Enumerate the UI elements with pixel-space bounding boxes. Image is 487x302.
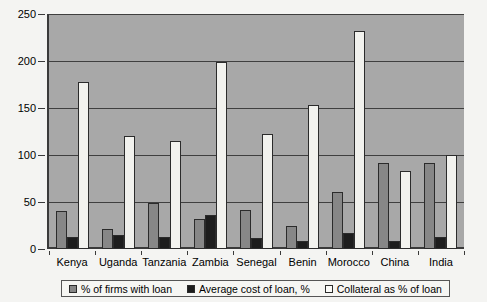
- bar[interactable]: [400, 171, 411, 249]
- bar[interactable]: [251, 238, 262, 249]
- bar[interactable]: [170, 141, 181, 249]
- bar[interactable]: [102, 229, 113, 249]
- y-tick-mark: [38, 249, 45, 250]
- y-axis: 050100150200250: [0, 0, 47, 253]
- bar[interactable]: [435, 237, 446, 249]
- bar-group: [187, 14, 233, 249]
- x-axis-label-benin: Benin: [289, 256, 317, 268]
- bar[interactable]: [297, 241, 308, 249]
- y-tick-mark: [38, 155, 45, 156]
- bar[interactable]: [159, 237, 170, 249]
- bar-group: [233, 14, 279, 249]
- x-axis-label-uganda: Uganda: [99, 256, 138, 268]
- bar[interactable]: [78, 82, 89, 249]
- bar-group: [280, 14, 326, 249]
- bar[interactable]: [308, 105, 319, 249]
- legend-item-series-0[interactable]: % of firms with loan: [69, 283, 172, 295]
- bar[interactable]: [148, 203, 159, 249]
- x-axis-label-senegal: Senegal: [236, 256, 276, 268]
- y-tick-mark: [38, 14, 45, 15]
- y-tick-mark: [38, 202, 45, 203]
- bar[interactable]: [124, 136, 135, 249]
- x-axis-label-zambia: Zambia: [192, 256, 229, 268]
- x-axis-label-tanzania: Tanzania: [142, 256, 186, 268]
- bar[interactable]: [389, 241, 400, 249]
- bar[interactable]: [332, 192, 343, 249]
- legend-swatch-series-2: [325, 285, 333, 293]
- x-axis-label-kenya: Kenya: [56, 256, 87, 268]
- legend-item-series-1[interactable]: Average cost of loan, %: [187, 283, 310, 295]
- bar[interactable]: [216, 62, 227, 249]
- bar-group: [141, 14, 187, 249]
- y-tick-label: 150: [18, 103, 36, 113]
- x-tick-mark: [141, 251, 142, 255]
- x-tick-mark: [464, 251, 465, 255]
- bar[interactable]: [354, 31, 365, 249]
- bar[interactable]: [113, 235, 124, 249]
- bar-group: [372, 14, 418, 249]
- bar-group: [418, 14, 464, 249]
- x-tick-mark: [49, 251, 50, 255]
- bar-group: [326, 14, 372, 249]
- bar[interactable]: [424, 163, 435, 249]
- x-axis: KenyaUgandaTanzaniaZambiaSenegalBeninMor…: [49, 251, 464, 273]
- y-tick-label: 200: [18, 56, 36, 66]
- x-axis-label-india: India: [429, 256, 453, 268]
- bar-chart: 050100150200250 KenyaUgandaTanzaniaZambi…: [0, 0, 487, 302]
- x-tick-mark: [372, 251, 373, 255]
- bar[interactable]: [56, 211, 67, 249]
- y-tick-label: 50: [24, 197, 36, 207]
- legend-label: Collateral as % of loan: [337, 283, 442, 295]
- y-tick-mark: [38, 108, 45, 109]
- x-tick-mark: [280, 251, 281, 255]
- bar[interactable]: [378, 163, 389, 249]
- bar[interactable]: [343, 233, 354, 249]
- legend-item-series-2[interactable]: Collateral as % of loan: [325, 283, 442, 295]
- x-tick-mark: [233, 251, 234, 255]
- y-tick-label: 250: [18, 9, 36, 19]
- bar[interactable]: [67, 237, 78, 249]
- bar[interactable]: [194, 219, 205, 249]
- x-tick-mark: [326, 251, 327, 255]
- x-tick-mark: [95, 251, 96, 255]
- chart-legend: % of firms with loanAverage cost of loan…: [61, 280, 450, 297]
- y-tick-label: 100: [18, 150, 36, 160]
- bar[interactable]: [446, 155, 457, 249]
- x-tick-mark: [418, 251, 419, 255]
- legend-label: % of firms with loan: [81, 283, 172, 295]
- legend-swatch-series-1: [187, 285, 195, 293]
- x-axis-label-morocco: Morocco: [328, 256, 370, 268]
- bar[interactable]: [286, 226, 297, 250]
- bars-layer: [49, 14, 464, 249]
- x-axis-label-china: China: [380, 256, 409, 268]
- bar-group: [95, 14, 141, 249]
- y-tick-mark: [38, 61, 45, 62]
- bar[interactable]: [240, 210, 251, 249]
- y-tick-label: 0: [30, 244, 36, 254]
- legend-swatch-series-0: [69, 285, 77, 293]
- legend-label: Average cost of loan, %: [199, 283, 310, 295]
- x-tick-mark: [187, 251, 188, 255]
- bar[interactable]: [262, 134, 273, 249]
- bar-group: [49, 14, 95, 249]
- bar[interactable]: [205, 215, 216, 249]
